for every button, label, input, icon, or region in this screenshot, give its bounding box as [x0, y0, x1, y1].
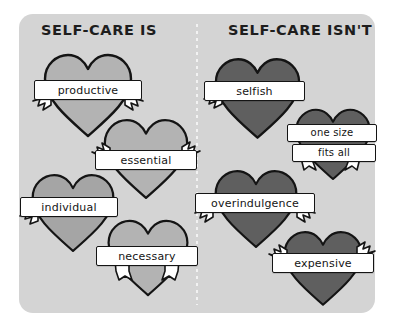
banner-individual: individual — [20, 197, 118, 217]
banner-essential: essential — [95, 150, 197, 170]
banner-selfish: selfish — [204, 81, 305, 101]
banner-overindulgence: overindulgence — [195, 193, 315, 213]
banner-fits-all: fits all — [292, 144, 376, 162]
banner-expensive: expensive — [272, 253, 374, 273]
column-title-self-care-is: SELF-CARE IS — [41, 22, 157, 38]
banner-necessary: necessary — [96, 246, 198, 266]
banner-one-size: one size — [287, 124, 377, 142]
banner-productive: productive — [34, 80, 142, 100]
self-care-poster: SELF-CARE IS SELF-CARE ISN'T productive — [0, 0, 394, 327]
column-title-self-care-isnt: SELF-CARE ISN'T — [228, 22, 372, 38]
